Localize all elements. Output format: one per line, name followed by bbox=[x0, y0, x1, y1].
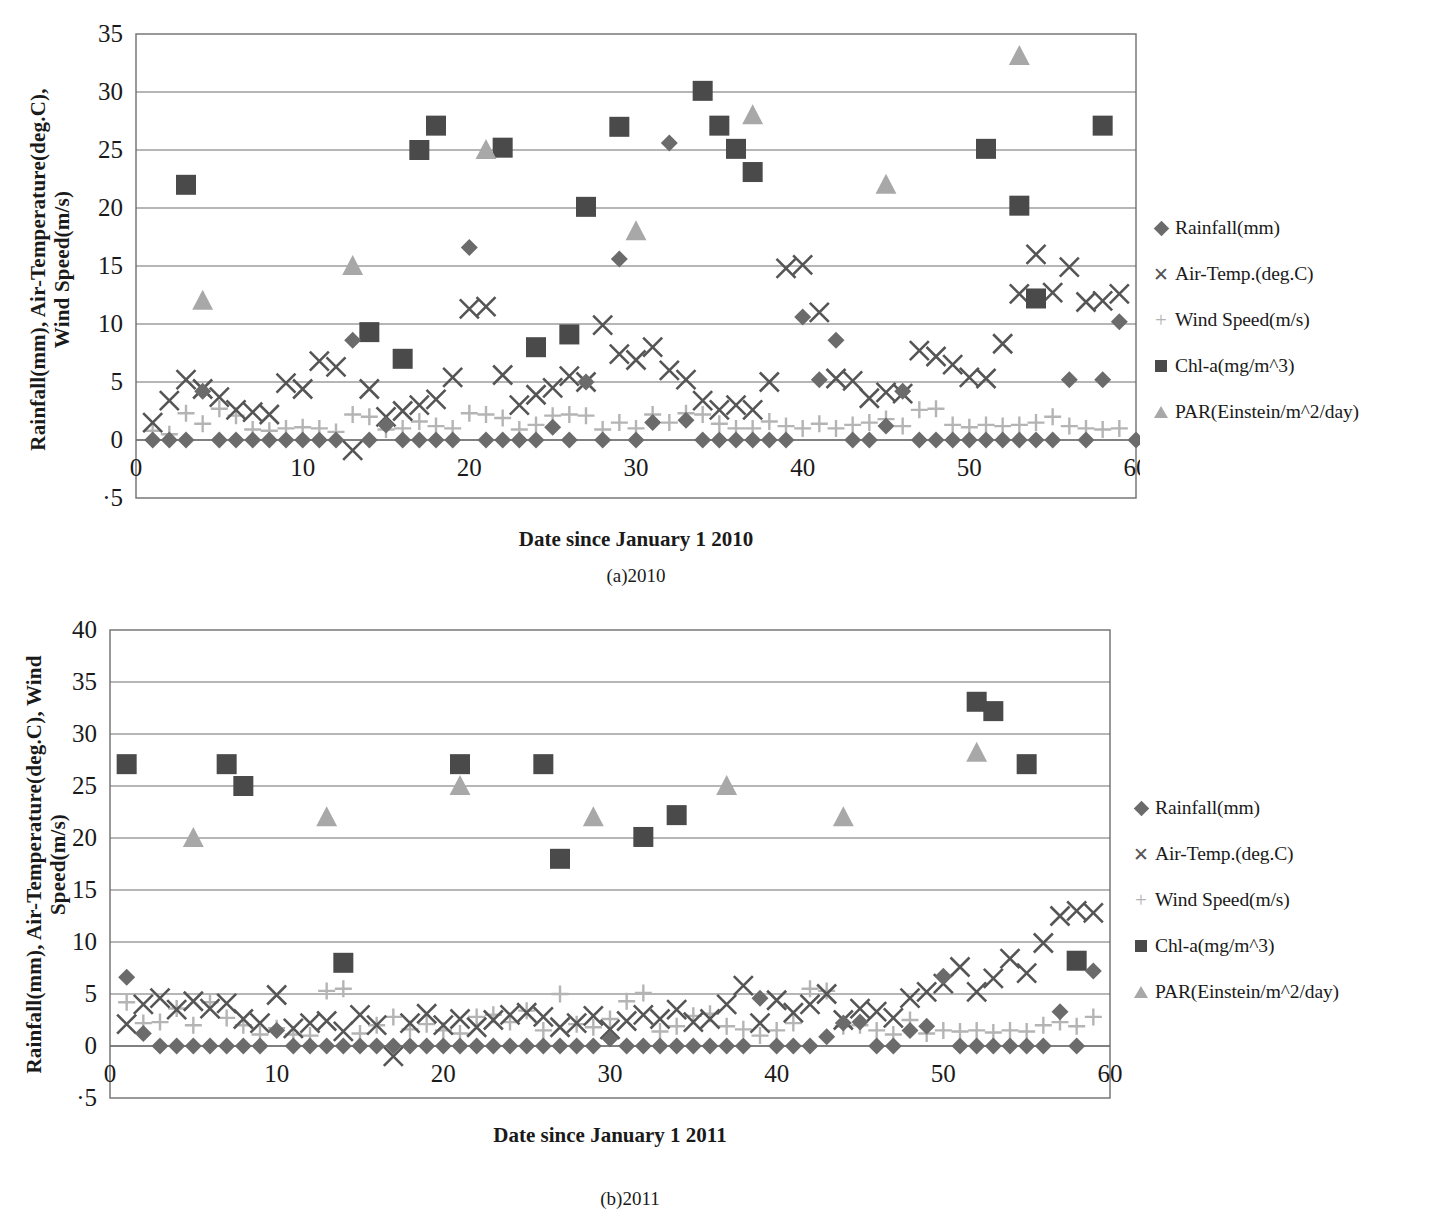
legend-item-b-3[interactable]: Chl-a(mg/m^3) bbox=[1130, 923, 1339, 969]
x-tick-label-20: 20 bbox=[457, 454, 482, 481]
x-icon: ✕ bbox=[1130, 845, 1152, 864]
legend-label-a-3: Chl-a(mg/m^3) bbox=[1175, 355, 1294, 377]
point-chla bbox=[176, 175, 196, 195]
x-tick-label-40: 40 bbox=[764, 1060, 789, 1087]
triangle-icon bbox=[1130, 986, 1152, 998]
point-chla bbox=[359, 322, 379, 342]
x-tick-label-40: 40 bbox=[790, 454, 815, 481]
y-tick-label--5: ·5 bbox=[76, 1084, 97, 1111]
legend-item-b-0[interactable]: Rainfall(mm) bbox=[1130, 785, 1339, 831]
legend-label-b-1: Air-Temp.(deg.C) bbox=[1155, 843, 1294, 865]
x-tick-label-50: 50 bbox=[957, 454, 982, 481]
point-chla bbox=[709, 116, 729, 136]
point-chla bbox=[743, 162, 763, 182]
y-tick-label-0: 0 bbox=[85, 1032, 98, 1059]
x-tick-label-10: 10 bbox=[264, 1060, 289, 1087]
scatter-plot-b: ·505101520253035400102030405060 bbox=[0, 610, 1140, 1155]
x-icon: ✕ bbox=[1150, 265, 1172, 284]
y-tick-label-40: 40 bbox=[72, 616, 97, 643]
point-chla bbox=[576, 197, 596, 217]
panel-caption-a: (a)2010 bbox=[436, 565, 836, 587]
y-tick-label-35: 35 bbox=[98, 20, 123, 47]
point-chla bbox=[550, 849, 570, 869]
y-tick-label-35: 35 bbox=[72, 668, 97, 695]
point-chla bbox=[976, 139, 996, 159]
point-chla bbox=[533, 754, 553, 774]
chart-panel-b: Rainfall(mm), Air-Temperature(deg.C), Wi… bbox=[0, 610, 1429, 1220]
point-chla bbox=[450, 754, 470, 774]
x-tick-label-0: 0 bbox=[130, 454, 143, 481]
x-tick-label-30: 30 bbox=[624, 454, 649, 481]
point-chla bbox=[1026, 288, 1046, 308]
y-tick-label-20: 20 bbox=[72, 824, 97, 851]
x-tick-label-0: 0 bbox=[104, 1060, 117, 1087]
x-axis-label-b: Date since January 1 2011 bbox=[110, 1123, 1110, 1148]
point-chla bbox=[726, 139, 746, 159]
point-chla bbox=[667, 805, 687, 825]
point-chla bbox=[983, 701, 1003, 721]
x-tick-label-30: 30 bbox=[598, 1060, 623, 1087]
point-chla bbox=[1009, 196, 1029, 216]
plus-icon: + bbox=[1150, 310, 1172, 331]
legend-label-a-0: Rainfall(mm) bbox=[1175, 217, 1280, 239]
chart-panel-a: Rainfall(mm), Air-Temperature(deg.C), Wi… bbox=[0, 0, 1429, 610]
y-tick-label-5: 5 bbox=[111, 368, 124, 395]
plus-icon: + bbox=[1130, 890, 1152, 911]
point-chla bbox=[526, 337, 546, 357]
legend-item-b-4[interactable]: PAR(Einstein/m^2/day) bbox=[1130, 969, 1339, 1015]
point-chla bbox=[1017, 754, 1037, 774]
y-tick-label-10: 10 bbox=[72, 928, 97, 955]
y-tick-label-25: 25 bbox=[98, 136, 123, 163]
x-tick-label-10: 10 bbox=[290, 454, 315, 481]
y-tick-label-10: 10 bbox=[98, 310, 123, 337]
legend-item-a-3[interactable]: Chl-a(mg/m^3) bbox=[1150, 343, 1359, 389]
legend-item-a-1[interactable]: ✕Air-Temp.(deg.C) bbox=[1150, 251, 1359, 297]
square-icon bbox=[1150, 360, 1172, 372]
point-chla bbox=[693, 81, 713, 101]
point-chla bbox=[1093, 116, 1113, 136]
point-chla bbox=[409, 140, 429, 160]
x-tick-label-60: 60 bbox=[1098, 1060, 1123, 1087]
legend-a: Rainfall(mm)✕Air-Temp.(deg.C)+Wind Speed… bbox=[1150, 205, 1359, 435]
point-chla bbox=[426, 116, 446, 136]
y-tick-label-0: 0 bbox=[111, 426, 124, 453]
x-tick-label-60: 60 bbox=[1124, 454, 1141, 481]
point-chla bbox=[217, 754, 237, 774]
triangle-icon bbox=[1150, 406, 1172, 418]
point-chla bbox=[493, 138, 513, 158]
x-axis-label-a: Date since January 1 2010 bbox=[136, 527, 1136, 552]
y-tick-label-15: 15 bbox=[98, 252, 123, 279]
x-tick-label-50: 50 bbox=[931, 1060, 956, 1087]
y-tick-label-30: 30 bbox=[72, 720, 97, 747]
scatter-plot-a: ·5051015202530350102030405060 bbox=[0, 0, 1140, 560]
legend-item-b-2[interactable]: +Wind Speed(m/s) bbox=[1130, 877, 1339, 923]
point-chla bbox=[333, 953, 353, 973]
point-chla bbox=[393, 349, 413, 369]
legend-item-a-2[interactable]: +Wind Speed(m/s) bbox=[1150, 297, 1359, 343]
figure-container: Rainfall(mm), Air-Temperature(deg.C), Wi… bbox=[0, 0, 1429, 1220]
legend-b: Rainfall(mm)✕Air-Temp.(deg.C)+Wind Speed… bbox=[1130, 785, 1339, 1015]
legend-label-b-2: Wind Speed(m/s) bbox=[1155, 889, 1290, 911]
point-chla bbox=[233, 776, 253, 796]
legend-label-b-0: Rainfall(mm) bbox=[1155, 797, 1260, 819]
legend-label-b-4: PAR(Einstein/m^2/day) bbox=[1155, 981, 1339, 1003]
legend-item-a-4[interactable]: PAR(Einstein/m^2/day) bbox=[1150, 389, 1359, 435]
y-tick-label-30: 30 bbox=[98, 78, 123, 105]
legend-label-a-1: Air-Temp.(deg.C) bbox=[1175, 263, 1314, 285]
y-tick-label-5: 5 bbox=[85, 980, 98, 1007]
x-tick-label-20: 20 bbox=[431, 1060, 456, 1087]
legend-label-a-2: Wind Speed(m/s) bbox=[1175, 309, 1310, 331]
y-tick-label-15: 15 bbox=[72, 876, 97, 903]
point-chla bbox=[609, 117, 629, 137]
square-icon bbox=[1130, 940, 1152, 952]
diamond-icon bbox=[1150, 223, 1172, 234]
legend-item-a-0[interactable]: Rainfall(mm) bbox=[1150, 205, 1359, 251]
legend-item-b-1[interactable]: ✕Air-Temp.(deg.C) bbox=[1130, 831, 1339, 877]
y-tick-label--5: ·5 bbox=[102, 484, 123, 511]
point-chla bbox=[559, 324, 579, 344]
point-chla bbox=[117, 754, 137, 774]
legend-label-a-4: PAR(Einstein/m^2/day) bbox=[1175, 401, 1359, 423]
y-tick-label-20: 20 bbox=[98, 194, 123, 221]
legend-label-b-3: Chl-a(mg/m^3) bbox=[1155, 935, 1274, 957]
diamond-icon bbox=[1130, 803, 1152, 814]
